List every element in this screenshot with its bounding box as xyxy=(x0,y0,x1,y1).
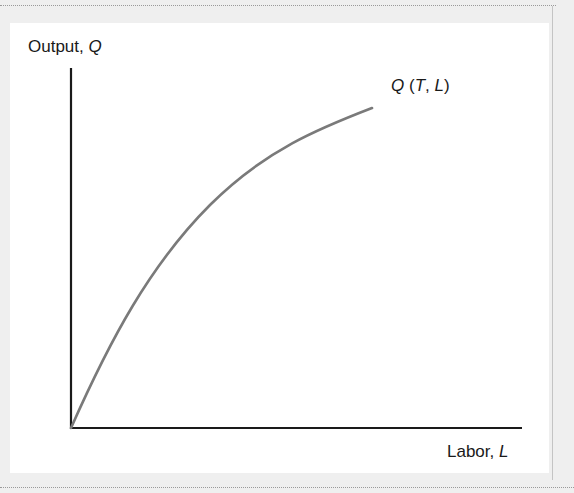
curve-label: Q (T, L) xyxy=(391,77,450,94)
x-axis-label: Labor, L xyxy=(447,443,508,460)
y-axis-label: Output, Q xyxy=(28,38,102,55)
production-function-plot xyxy=(0,0,574,493)
production-curve xyxy=(71,108,372,428)
